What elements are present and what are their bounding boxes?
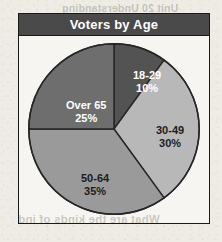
chart-title-bar: Voters by Age: [19, 14, 209, 36]
chart-frame: Voters by Age 18-2910%30-4930%50-6435%Ov…: [18, 13, 210, 224]
pie-slice-group: [29, 44, 199, 214]
pie-chart-svg: [26, 41, 202, 217]
pie-slice-over-65: [29, 44, 114, 129]
chart-title: Voters by Age: [70, 17, 159, 32]
pie-chart-plot-area: 18-2910%30-4930%50-6435%Over 6525%: [19, 36, 209, 222]
